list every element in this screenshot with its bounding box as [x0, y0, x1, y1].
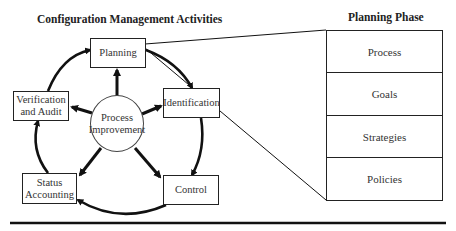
identification-box: Identification — [163, 88, 220, 118]
arrow-improvement-to-control — [135, 148, 160, 177]
diagram-title: Configuration Management Activities — [37, 13, 222, 25]
planning-label: Planning — [99, 47, 136, 59]
status-accounting-label-line2: Accounting — [25, 189, 74, 201]
arrow-verification-to-planning — [48, 50, 90, 91]
zoom-line-top — [145, 30, 326, 44]
planning-phase-item: Goals — [326, 72, 443, 116]
identification-label: Identification — [163, 97, 220, 109]
verification-audit-label-line2: and Audit — [20, 106, 61, 118]
process-improvement-label-line2: Improvement — [89, 124, 146, 136]
planning-phase-title: Planning Phase — [348, 11, 424, 23]
control-label: Control — [175, 184, 207, 196]
planning-phase-item: Strategies — [326, 115, 443, 158]
control-box: Control — [163, 175, 219, 205]
arrow-improvement-to-verification — [72, 107, 92, 113]
planning-phase-item: Process — [326, 30, 443, 73]
verification-audit-box: Verification and Audit — [13, 91, 69, 121]
arrow-improvement-to-status — [80, 148, 101, 175]
verification-audit-label-line1: Verification — [16, 94, 66, 106]
status-accounting-label-line1: Status — [37, 177, 63, 189]
planning-phase-item-label: Strategies — [363, 131, 406, 143]
planning-phase-item-label: Goals — [372, 88, 398, 100]
status-accounting-box: Status Accounting — [22, 173, 77, 204]
planning-phase-item-label: Process — [368, 46, 402, 58]
process-improvement-circle: Process Improvement — [90, 95, 144, 152]
process-improvement-label-line1: Process — [101, 112, 133, 124]
planning-phase-item-label: Policies — [367, 173, 402, 185]
arrow-improvement-to-identification — [142, 106, 161, 114]
planning-box: Planning — [90, 38, 146, 68]
planning-phase-item: Policies — [326, 157, 443, 201]
arrow-control-to-status — [78, 200, 166, 214]
arrow-status-to-verification — [36, 121, 48, 173]
arrow-identification-to-control — [192, 118, 202, 175]
